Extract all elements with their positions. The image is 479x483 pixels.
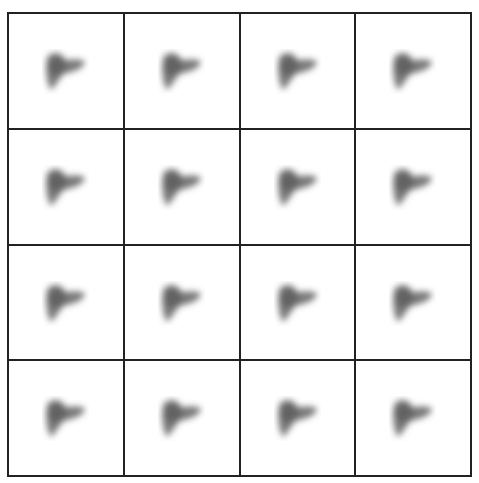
- scan-image: [153, 160, 213, 220]
- grid-cell: [8, 360, 124, 476]
- scan-image: [153, 276, 213, 336]
- scan-image: [37, 276, 97, 336]
- grid-cell: [240, 360, 356, 476]
- scan-image: [384, 276, 444, 336]
- grid-cell: [124, 129, 240, 245]
- grid-cell: [124, 245, 240, 361]
- grid-cell: [8, 129, 124, 245]
- scan-image: [269, 44, 329, 104]
- grid-cell: [8, 245, 124, 361]
- scan-image: [37, 160, 97, 220]
- scan-image: [37, 44, 97, 104]
- grid-cell: [8, 13, 124, 129]
- scan-image: [384, 391, 444, 451]
- grid-cell: [240, 245, 356, 361]
- scan-image: [384, 160, 444, 220]
- scan-image: [269, 276, 329, 336]
- scan-image: [153, 44, 213, 104]
- image-grid: [7, 12, 472, 477]
- scan-image: [269, 160, 329, 220]
- scan-image: [37, 391, 97, 451]
- grid-cell: [124, 360, 240, 476]
- scan-image: [384, 44, 444, 104]
- scan-image: [153, 391, 213, 451]
- grid-cell: [355, 245, 471, 361]
- grid-cell: [355, 13, 471, 129]
- grid-cell: [355, 129, 471, 245]
- grid-cell: [240, 129, 356, 245]
- grid-cell: [240, 13, 356, 129]
- grid-cell: [124, 13, 240, 129]
- grid-cell: [355, 360, 471, 476]
- scan-image: [269, 391, 329, 451]
